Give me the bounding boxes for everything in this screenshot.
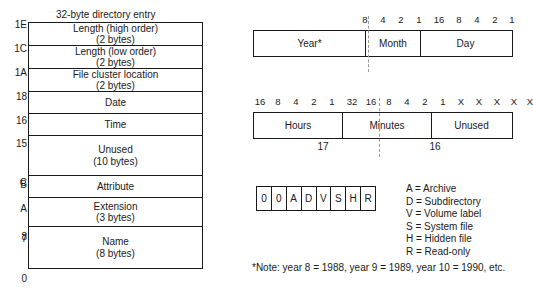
attribute-bit-cell: S [331, 187, 346, 210]
legend-entry: V = Volume label [406, 208, 481, 221]
bit-weight-label: X [511, 96, 517, 108]
attribute-bit-label: A [290, 193, 297, 204]
legend-entry: A = Archive [406, 183, 481, 196]
time-byte-number-labels: 1716 [253, 140, 513, 154]
bitfield-segment: Month [366, 31, 421, 56]
year-footnote: *Note: year 8 = 1988, year 9 = 1989, yea… [252, 262, 505, 274]
bit-weight-label: 8 [386, 96, 391, 108]
offset-label: 15 [9, 138, 27, 149]
attribute-bit-cell: V [317, 187, 332, 210]
directory-entry-row: Date [29, 92, 202, 114]
row-label: Name [102, 236, 129, 248]
time-bit-labels: 16842132168421XXXXX [253, 96, 513, 112]
directory-entry-row: File cluster location(2 bytes) [29, 69, 202, 92]
row-size-label: (10 bytes) [93, 156, 137, 168]
row-label: Length (high order) [73, 23, 158, 35]
directory-entry-row: Attribute [29, 176, 202, 198]
bit-weight-label: 2 [422, 96, 427, 108]
row-size-label: (3 bytes) [96, 212, 135, 224]
bitfield-segment: Unused [432, 113, 511, 138]
bit-weight-label: 16 [366, 96, 377, 108]
row-size-label: (2 bytes) [96, 34, 135, 46]
row-size-label: (2 bytes) [96, 80, 135, 92]
offset-label: 18 [9, 91, 27, 102]
bit-weight-label: 2 [398, 14, 403, 26]
directory-entry-row: Unused(10 bytes) [29, 136, 202, 176]
attribute-bit-label: S [335, 193, 342, 204]
bit-weight-label: 4 [474, 14, 479, 26]
directory-entry-row: Time [29, 114, 202, 136]
row-label: Date [105, 97, 126, 109]
attribute-bit-label: R [364, 193, 371, 204]
bit-weight-label: X [476, 96, 482, 108]
row-label: Attribute [97, 181, 134, 193]
bit-weight-label: 1 [509, 14, 514, 26]
directory-entry-row: Extension(3 bytes) [29, 198, 202, 227]
attribute-bit-label: D [305, 193, 312, 204]
bit-weight-label: X [494, 96, 500, 108]
directory-entry-row: Length (high order)(2 bytes) [29, 23, 202, 46]
offset-label: 1A [9, 67, 27, 78]
bit-weight-label: 4 [380, 14, 385, 26]
bit-weight-label: 8 [275, 96, 280, 108]
attribute-bit-cell: R [361, 187, 375, 210]
offset-label: A [9, 203, 27, 214]
date-field-row: Year*MonthDay [253, 30, 513, 57]
byte-number-label: 17 [317, 140, 328, 153]
bitfield-segment: Day [421, 31, 510, 56]
attribute-legend: A = ArchiveD = SubdirectoryV = Volume la… [406, 183, 481, 259]
bit-weight-label: 2 [492, 14, 497, 26]
legend-entry: H = Hidden file [406, 233, 481, 246]
directory-entry-table: Length (high order)(2 bytes)Length (low … [28, 22, 203, 269]
row-label: Extension [94, 201, 138, 213]
offset-label: 16 [9, 115, 27, 126]
legend-entry: D = Subdirectory [406, 196, 481, 209]
time-field-row: HoursMinutesUnused [253, 112, 513, 139]
row-label: File cluster location [73, 69, 159, 81]
bit-weight-label: 4 [404, 96, 409, 108]
attribute-byte-row: 00ADVSHR [256, 186, 376, 211]
time-byte-split-dashed-line [379, 98, 380, 157]
bit-weight-label: 8 [362, 14, 367, 26]
legend-entry: S = System file [406, 221, 481, 234]
date-byte-split-dashed-line [368, 16, 369, 72]
bit-weight-label: X [458, 96, 464, 108]
bit-weight-label: 2 [311, 96, 316, 108]
bit-weight-label: 1 [329, 96, 334, 108]
offset-label: B [9, 179, 27, 190]
bitfield-label: Hours [285, 120, 312, 131]
bit-weight-label: 16 [255, 96, 266, 108]
bit-weight-label: 1 [416, 14, 421, 26]
bit-weight-label: 8 [456, 14, 461, 26]
bitfield-label: Unused [454, 120, 488, 131]
attribute-bit-cell: 0 [257, 187, 272, 210]
bit-weight-label: 32 [347, 96, 358, 108]
row-size-label: (8 bytes) [96, 248, 135, 260]
row-label: Unused [98, 144, 132, 156]
bit-weight-label: 4 [293, 96, 298, 108]
byte-number-label: 16 [429, 140, 440, 153]
row-label: Length (low order) [75, 46, 156, 58]
attribute-bit-cell: D [302, 187, 317, 210]
bitfield-segment: Year* [254, 31, 366, 56]
directory-entry-row: Name(8 bytes) [29, 227, 202, 268]
attribute-bit-label: 0 [276, 193, 282, 204]
legend-entry: R = Read-only [406, 246, 481, 259]
page-title: 32-byte directory entry [56, 9, 156, 21]
offset-label: 0 [9, 273, 27, 284]
bitfield-label: Year* [297, 38, 321, 49]
bit-weight-label: X [527, 96, 533, 108]
directory-entry-row: Length (low order)(2 bytes) [29, 46, 202, 69]
bitfield-segment: Hours [254, 113, 343, 138]
attribute-bit-cell: H [346, 187, 361, 210]
offset-label: 7 [9, 233, 27, 244]
date-bit-labels: 8421168421 [253, 14, 513, 30]
row-label: Time [105, 119, 127, 131]
attribute-bit-label: V [320, 193, 327, 204]
bit-weight-label: 1 [440, 96, 445, 108]
attribute-bit-cell: A [287, 187, 302, 210]
bitfield-label: Day [457, 38, 475, 49]
attribute-bit-label: 0 [261, 193, 267, 204]
bitfield-label: Month [379, 38, 407, 49]
row-size-label: (2 bytes) [96, 57, 135, 69]
